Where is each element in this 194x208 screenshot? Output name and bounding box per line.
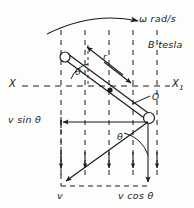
axis-label-x1-right: X1	[172, 78, 184, 92]
v-cos-theta-label: v cos θ	[118, 190, 154, 201]
physics-diagram: ω rad/s B tesla X X1 O r θ θ v sin θ v v…	[0, 0, 194, 208]
velocity-label: v	[57, 190, 63, 201]
radius-arrow-lower	[104, 62, 131, 83]
velocity-resultant-vector	[66, 122, 148, 181]
axis-label-x1-subscript: 1	[179, 84, 184, 92]
conductor-rod	[64, 54, 151, 120]
magnetic-field-arrows	[61, 152, 157, 168]
radius-label: r	[103, 52, 107, 62]
v-sin-theta-label: v sin θ	[8, 114, 41, 125]
rod-outer-end-contact	[60, 52, 70, 62]
theta-label-rod: θ	[75, 66, 81, 77]
magnetic-flux-density-label: B tesla	[148, 39, 183, 50]
pivot-point	[107, 87, 112, 92]
diagram-canvas	[0, 0, 194, 208]
omega-label: ω rad/s	[139, 13, 176, 24]
origin-label: O	[152, 92, 159, 102]
theta-label-velocity: θ	[117, 131, 123, 142]
origin-leader-line	[132, 96, 150, 104]
axis-label-x-left: X	[9, 78, 16, 89]
